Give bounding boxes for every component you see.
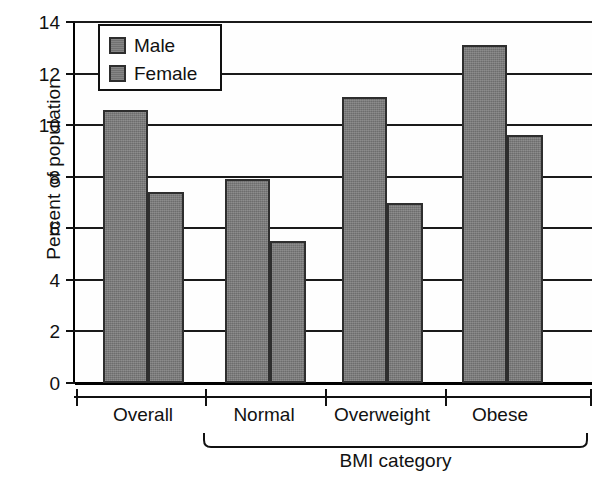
y-axis-tick-mark — [66, 330, 75, 332]
y-axis-tick-label: 10 — [26, 116, 60, 135]
y-axis-tick-label: 6 — [26, 219, 60, 238]
y-axis-tick-labels: 14121086420 — [16, 0, 60, 479]
bmi-category-bracket-icon — [203, 432, 588, 448]
category-separator-tick — [445, 389, 447, 406]
bar-normal-female — [270, 241, 306, 383]
y-axis-tick-label: 2 — [26, 322, 60, 341]
gridline — [75, 124, 592, 126]
category-separator-tick — [76, 389, 78, 406]
y-axis-tick-label: 8 — [26, 168, 60, 187]
bar-obese-male — [462, 45, 507, 383]
bar-chart: Percent of population 14121086420 Male F… — [0, 0, 592, 479]
y-axis-tick-label: 0 — [26, 374, 60, 393]
y-axis-tick-label: 12 — [26, 65, 60, 84]
y-axis-tick-mark — [66, 176, 75, 178]
legend: Male Female — [98, 24, 222, 91]
legend-label-male: Male — [134, 36, 175, 55]
legend-swatch-female-icon — [109, 65, 126, 82]
bar-overweight-male — [342, 97, 387, 383]
category-label-obese: Obese — [420, 404, 580, 426]
legend-label-female: Female — [134, 64, 197, 83]
y-axis-tick-label: 14 — [26, 13, 60, 32]
y-axis-tick-mark — [66, 227, 75, 229]
bar-normal-male — [225, 179, 270, 383]
y-axis-tick-mark — [66, 124, 75, 126]
bar-overweight-female — [387, 203, 423, 384]
bar-overall-male — [103, 110, 148, 383]
bar-obese-female — [507, 135, 543, 383]
y-axis-tick-mark — [66, 279, 75, 281]
y-axis-tick-mark — [66, 21, 75, 23]
gridline — [75, 21, 592, 23]
category-separator-tick — [205, 389, 207, 406]
legend-item-female: Female — [109, 59, 220, 87]
category-separator-tick — [325, 389, 327, 406]
y-axis-tick-label: 4 — [26, 271, 60, 290]
legend-swatch-male-icon — [109, 37, 126, 54]
legend-item-male: Male — [109, 31, 220, 59]
y-axis-tick-mark — [66, 382, 75, 384]
y-axis-tick-mark — [66, 73, 75, 75]
category-axis-line — [74, 396, 592, 398]
bar-overall-female — [148, 192, 184, 383]
x-axis-title: BMI category — [203, 450, 588, 472]
